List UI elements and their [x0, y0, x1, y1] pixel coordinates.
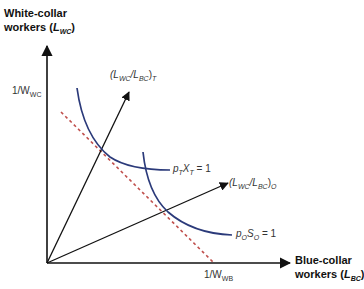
ray-t-label: (LWC/LBC)T: [110, 70, 156, 82]
x-axis-title: Blue-collar workers (LBC): [295, 253, 364, 286]
isoquant-t-label: pTXT = 1: [173, 164, 211, 176]
ray-t: [47, 92, 129, 263]
ray-o-label: (LWC/LBC)O: [229, 178, 276, 190]
isoquant-o-label: pOSO = 1: [236, 229, 276, 241]
isoquant-t-curve: [77, 88, 170, 170]
ray-o: [47, 183, 228, 263]
y-intercept-label: 1/WWC: [12, 86, 41, 98]
y-axis-title: White-collar workers (LWC): [4, 6, 75, 39]
x-intercept-label: 1/WWB: [204, 270, 233, 282]
